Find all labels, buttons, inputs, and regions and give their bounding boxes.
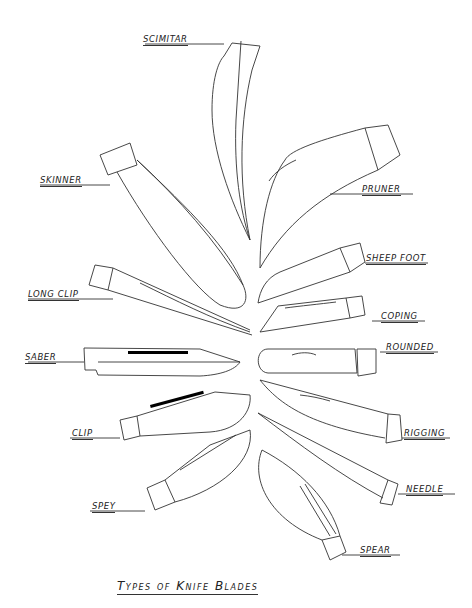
pruner-blade: [260, 125, 413, 268]
spey-blade: [90, 430, 250, 511]
label-long-clip: LONG CLIP: [28, 289, 79, 301]
label-coping: COPING: [381, 311, 418, 323]
knife-blades-drawing: [0, 0, 472, 608]
label-rounded: ROUNDED: [386, 342, 434, 354]
label-rigging: RIGGING: [404, 428, 445, 440]
saber-blade: [28, 348, 240, 376]
clip-blade: [70, 391, 250, 440]
label-spey: SPEY: [92, 501, 115, 513]
skinner-blade: [40, 143, 246, 308]
label-sheep-foot: SHEEP FOOT: [366, 253, 426, 265]
label-saber: SABER: [25, 352, 56, 364]
spear-blade: [259, 450, 400, 560]
scimitar-blade: [145, 41, 260, 240]
label-scimitar: SCIMITAR: [143, 34, 188, 46]
label-needle: NEEDLE: [406, 484, 443, 496]
label-spear: SPEAR: [360, 545, 391, 557]
sheep-foot-blade: [258, 243, 428, 303]
label-skinner: SKINNER: [40, 175, 82, 187]
label-clip: CLIP: [72, 428, 93, 440]
drawing-title: Types of Knife Blades: [117, 580, 258, 595]
label-pruner: PRUNER: [362, 184, 401, 196]
